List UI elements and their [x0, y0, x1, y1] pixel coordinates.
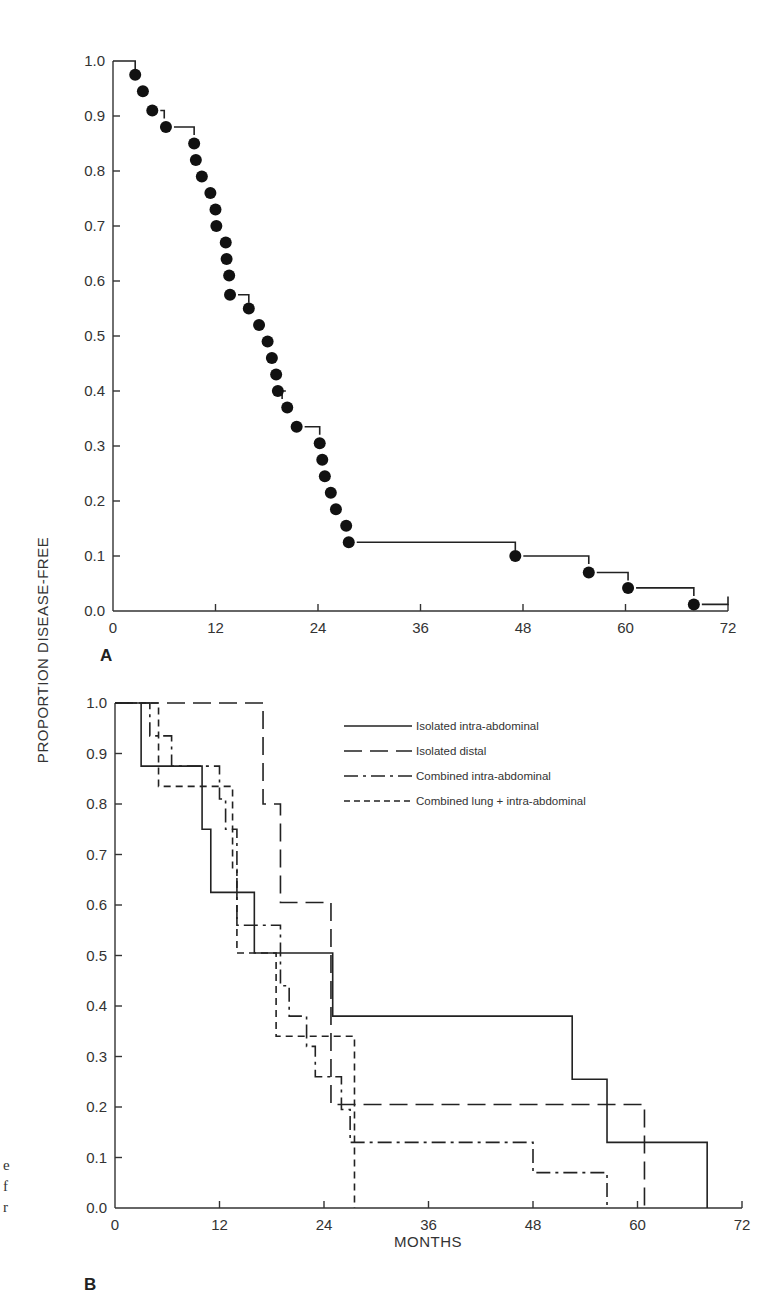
figure: PROPORTION DISEASE-FREE 1.00.90.80.70.60… — [0, 0, 769, 1312]
data-point — [272, 385, 284, 397]
panel-a-data-points — [129, 69, 700, 611]
data-point — [204, 187, 216, 199]
survival-curve-short-dash — [115, 703, 354, 1208]
data-point — [281, 402, 293, 414]
data-point — [688, 598, 700, 610]
data-point — [325, 487, 337, 499]
y-tick-label: 1.0 — [84, 52, 105, 69]
panel-b-y-tick-labels: 1.00.90.80.70.60.50.40.30.20.10.0 — [86, 694, 107, 1216]
data-point — [343, 536, 355, 548]
y-tick-label: 0.2 — [84, 492, 105, 509]
data-point — [316, 454, 328, 466]
y-tick-label: 0.4 — [86, 997, 107, 1014]
data-point — [224, 289, 236, 301]
step-segment — [238, 295, 249, 303]
y-tick-label: 0.7 — [86, 846, 107, 863]
y-tick-label: 0.6 — [86, 896, 107, 913]
step-segment — [636, 588, 694, 596]
survival-curve-solid — [115, 703, 707, 1208]
data-point — [266, 352, 278, 364]
step-segment — [702, 596, 728, 604]
data-point — [262, 336, 274, 348]
step-segment — [357, 542, 516, 550]
data-point — [146, 105, 158, 117]
step-segment — [305, 427, 320, 435]
data-point — [221, 253, 233, 265]
panel-b-letter: B — [84, 1275, 96, 1294]
panel-b-x-tick-labels: 0122436486072 — [111, 1216, 751, 1233]
y-tick-label: 0.0 — [86, 1199, 107, 1216]
panel-a-y-tick-labels: 1.00.90.80.70.60.50.40.30.20.10.0 — [84, 52, 105, 619]
x-axis-title: MONTHS — [394, 1233, 462, 1250]
x-tick-label: 24 — [316, 1216, 333, 1233]
y-tick-label: 0.4 — [84, 382, 105, 399]
data-point — [243, 303, 255, 315]
x-tick-label: 36 — [420, 1216, 437, 1233]
data-point — [210, 220, 222, 232]
panel-a-chart: 1.00.90.80.70.60.50.40.30.20.10.0 012243… — [84, 52, 736, 665]
panel-b-legend: Isolated intra-abdominalIsolated distalC… — [344, 720, 586, 807]
legend-label: Isolated distal — [416, 745, 486, 757]
y-tick-label: 0.5 — [84, 327, 105, 344]
data-point — [129, 69, 141, 81]
x-tick-label: 0 — [111, 1216, 119, 1233]
data-point — [196, 171, 208, 183]
step-segment — [174, 127, 194, 135]
caption-fragment: e — [3, 1157, 10, 1173]
step-segment — [523, 556, 588, 564]
x-tick-label: 48 — [525, 1216, 542, 1233]
data-point — [210, 204, 222, 216]
data-point — [137, 85, 149, 97]
y-tick-label: 0.5 — [86, 947, 107, 964]
data-point — [509, 550, 521, 562]
y-tick-label: 0.8 — [84, 162, 105, 179]
x-tick-label: 72 — [734, 1216, 751, 1233]
x-tick-label: 12 — [207, 619, 224, 636]
data-point — [583, 567, 595, 579]
y-tick-label: 0.8 — [86, 795, 107, 812]
y-tick-label: 0.1 — [86, 1149, 107, 1166]
y-tick-label: 0.6 — [84, 272, 105, 289]
data-point — [330, 503, 342, 515]
data-point — [314, 437, 326, 449]
data-point — [188, 138, 200, 150]
x-tick-label: 12 — [211, 1216, 228, 1233]
data-point — [340, 520, 352, 532]
panel-b-chart: 1.00.90.80.70.60.50.40.30.20.10.0 012243… — [84, 694, 750, 1294]
y-axis-title: PROPORTION DISEASE-FREE — [34, 537, 51, 763]
y-tick-label: 1.0 — [86, 694, 107, 711]
y-tick-label: 0.3 — [84, 437, 105, 454]
y-tick-label: 0.9 — [86, 745, 107, 762]
x-tick-label: 60 — [629, 1216, 646, 1233]
caption-fragments: e f r — [3, 1157, 10, 1215]
y-tick-label: 0.7 — [84, 217, 105, 234]
data-point — [223, 270, 235, 282]
data-point — [253, 319, 265, 331]
x-tick-label: 48 — [515, 619, 532, 636]
panel-a-letter: A — [100, 646, 112, 665]
data-point — [160, 121, 172, 133]
panel-a-x-tick-labels: 0122436486072 — [109, 619, 737, 636]
data-point — [270, 369, 282, 381]
panel-a-step-lines — [113, 61, 728, 604]
y-tick-label: 0.0 — [84, 602, 105, 619]
data-point — [220, 237, 232, 249]
data-point — [622, 582, 634, 594]
data-point — [291, 421, 303, 433]
legend-label: Isolated intra-abdominal — [416, 720, 539, 732]
step-segment — [160, 111, 164, 119]
x-tick-label: 0 — [109, 619, 117, 636]
x-tick-label: 60 — [617, 619, 634, 636]
legend-label: Combined intra-abdominal — [416, 770, 551, 782]
step-segment — [113, 61, 135, 69]
x-tick-label: 72 — [720, 619, 737, 636]
legend-label: Combined lung + intra-abdominal — [416, 795, 586, 807]
y-tick-label: 0.3 — [86, 1048, 107, 1065]
y-tick-label: 0.2 — [86, 1098, 107, 1115]
x-tick-label: 24 — [310, 619, 327, 636]
caption-fragment: f — [3, 1178, 8, 1194]
x-tick-label: 36 — [412, 619, 429, 636]
panel-a-axes — [113, 61, 728, 611]
data-point — [190, 154, 202, 166]
panel-b-curves — [115, 703, 707, 1208]
